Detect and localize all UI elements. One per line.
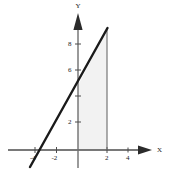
x-tick-label-neg2: -2 bbox=[52, 155, 58, 162]
x-tick-label-pos4: 4 bbox=[126, 155, 130, 162]
y-tick-label-8: 8 bbox=[68, 41, 72, 48]
y-axis-label: Y bbox=[76, 3, 81, 10]
x-tick-label-neg4: -4 bbox=[30, 155, 36, 162]
graph-figure: -4 -2 2 4 2 6 8 Y X bbox=[0, 0, 170, 178]
coordinate-plot bbox=[0, 0, 170, 178]
y-axis-arrow-icon bbox=[73, 13, 82, 30]
y-tick-label-2: 2 bbox=[68, 119, 72, 126]
shaded-area-region bbox=[78, 30, 107, 151]
y-tick-label-6: 6 bbox=[68, 67, 72, 74]
x-axis-arrow-icon bbox=[138, 145, 152, 154]
x-tick-label-pos2: 2 bbox=[105, 155, 109, 162]
x-axis-label: X bbox=[157, 147, 162, 154]
